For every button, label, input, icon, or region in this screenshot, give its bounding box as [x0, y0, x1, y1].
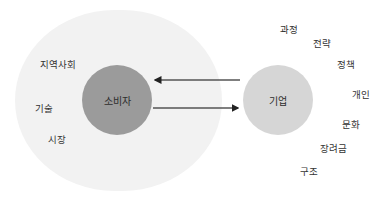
label-community: 지역사회	[40, 57, 76, 71]
label-culture: 문화	[342, 117, 360, 131]
label-structure: 구조	[300, 164, 318, 178]
label-market: 시장	[48, 132, 66, 146]
label-technology: 기술	[35, 101, 53, 115]
label-policy: 정책	[337, 57, 355, 71]
label-incentive: 장려금	[320, 141, 347, 155]
label-process: 과정	[280, 22, 298, 36]
label-strategy: 전략	[313, 36, 331, 50]
arrows	[0, 0, 386, 204]
label-individual: 개인	[352, 87, 370, 101]
